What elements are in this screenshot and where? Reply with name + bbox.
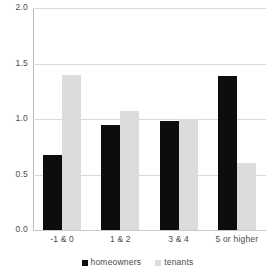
legend-item-label: tenants [164,258,193,267]
y-axis-tick-label: 0.0 [0,225,28,234]
x-axis-tick-label: 1 & 2 [91,234,149,245]
x-axis-tick-label: 3 & 4 [150,234,208,245]
bar-homeowners-2 [160,121,179,230]
bar-tenants-2 [179,119,198,230]
plot-area [33,8,266,230]
legend-item-homeowners: homeowners [82,258,142,267]
legend-item-tenants: tenants [155,258,193,267]
x-axis-tick-label: -1 & 0 [33,234,91,245]
chart-legend: homeowners tenants [0,258,275,267]
y-axis-tick-label: 1.0 [0,114,28,123]
bar-homeowners-3 [218,76,237,230]
bar-chart: 0.00.51.01.52.0 -1 & 01 & 23 & 45 or hig… [0,0,275,275]
bar-homeowners-0 [43,155,62,230]
x-axis-tick-label: 5 or higher [208,234,266,245]
y-axis-tick-label: 2.0 [0,3,28,12]
y-axis-tick-label: 0.5 [0,170,28,179]
legend-swatch-icon [82,260,88,266]
gridline [33,64,266,65]
y-axis-tick-label: 1.5 [0,59,28,68]
legend-item-label: homeowners [91,258,142,267]
gridline [33,230,266,231]
bar-tenants-3 [237,163,256,230]
x-axis-ticks: -1 & 01 & 23 & 45 or higher [33,234,266,248]
bar-homeowners-1 [101,125,120,230]
bar-tenants-0 [62,75,81,230]
bar-tenants-1 [120,111,139,230]
legend-swatch-icon [155,260,161,266]
gridline [33,8,266,9]
